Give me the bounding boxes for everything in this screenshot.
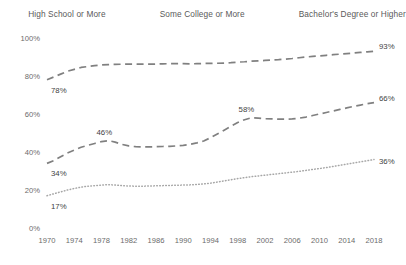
legend-swatch-dotted-icon xyxy=(271,13,293,15)
x-axis-tick-label: 1990 xyxy=(175,236,192,245)
data-point-label: 46% xyxy=(97,128,113,137)
series-line-0 xyxy=(47,51,374,80)
x-axis-tick-label: 2006 xyxy=(284,236,301,245)
legend-label: Some College or More xyxy=(160,9,245,19)
data-point-label: 58% xyxy=(239,105,255,114)
data-point-label: 66% xyxy=(379,94,395,103)
x-axis-tick-label: 2010 xyxy=(311,236,328,245)
x-axis-tick-label: 1994 xyxy=(202,236,219,245)
data-point-label: 93% xyxy=(379,42,395,51)
educational-attainment-line-chart: High School or MoreSome College or MoreB… xyxy=(0,0,406,265)
legend-swatch-dashed-icon xyxy=(132,13,154,15)
x-axis-tick-label: 1982 xyxy=(120,236,137,245)
legend-label: High School or More xyxy=(28,9,106,19)
y-axis-tick-label: 20% xyxy=(25,186,40,195)
data-point-label: 17% xyxy=(51,202,67,211)
x-axis-tick-label: 2002 xyxy=(257,236,274,245)
legend-item-0[interactable]: High School or More xyxy=(0,9,106,19)
x-axis-tick-label: 1974 xyxy=(66,236,83,245)
x-axis-tick-label: 1998 xyxy=(229,236,246,245)
y-axis-tick-label: 0% xyxy=(29,224,40,233)
x-axis-tick-label: 1970 xyxy=(39,236,56,245)
legend-swatch-solid-icon xyxy=(0,13,22,15)
x-axis-tick-label: 1978 xyxy=(93,236,110,245)
x-axis-tick-label: 2014 xyxy=(338,236,355,245)
data-point-label: 36% xyxy=(379,157,395,166)
legend-label: Bachelor's Degree or Higher xyxy=(299,9,406,19)
x-axis-tick-label: 1986 xyxy=(148,236,165,245)
data-point-label: 78% xyxy=(51,86,67,95)
y-axis-tick-label: 40% xyxy=(25,148,40,157)
y-axis-tick-label: 80% xyxy=(25,72,40,81)
chart-plot-area: 0%20%40%60%80%100%1970197419781982198619… xyxy=(0,0,406,265)
data-point-label: 34% xyxy=(51,169,67,178)
legend-item-2[interactable]: Bachelor's Degree or Higher xyxy=(271,9,406,19)
x-axis-tick-label: 2018 xyxy=(366,236,383,245)
legend-item-1[interactable]: Some College or More xyxy=(132,9,245,19)
y-axis-tick-label: 100% xyxy=(21,34,41,43)
y-axis-tick-label: 60% xyxy=(25,110,40,119)
chart-legend: High School or MoreSome College or MoreB… xyxy=(0,0,406,28)
series-line-2 xyxy=(47,160,374,196)
